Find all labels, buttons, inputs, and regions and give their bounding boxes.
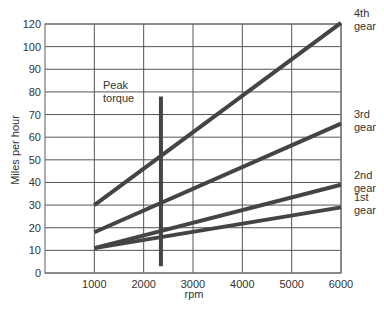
series-labels: 4thgear3rdgear2ndgear1stgear [354,7,376,216]
y-tick-label: 0 [35,267,41,279]
y-tick-label: 60 [29,131,41,143]
y-tick-label: 50 [29,154,41,166]
y-tick-label: 100 [23,41,41,53]
series-label: 3rdgear [354,108,376,133]
series-label: 1stgear [354,191,376,216]
y-tick-label: 20 [29,222,41,234]
y-tick-label: 40 [29,176,41,188]
x-tick-label: 2000 [131,278,155,290]
x-tick-label: 1000 [82,278,106,290]
x-tick-label: 6000 [329,278,353,290]
gear-speed-chart: 0102030405060708090100120 10002000300040… [0,0,384,309]
y-tick-label: 30 [29,199,41,211]
y-tick-label: 70 [29,109,41,121]
y-axis-ticks: 0102030405060708090100120 [23,18,41,279]
series-lines [94,23,341,248]
grid-lines [45,24,341,273]
y-tick-label: 120 [23,18,41,30]
x-tick-label: 4000 [230,278,254,290]
series-label: 2ndgear [354,169,376,194]
y-tick-label: 80 [29,86,41,98]
y-tick-label: 90 [29,63,41,75]
y-tick-label: 10 [29,244,41,256]
y-axis-label: Miles per hour [9,115,21,185]
peak-torque-label: Peaktorque [103,79,134,104]
x-axis-ticks: 100020003000400050006000 [82,278,353,290]
x-tick-label: 5000 [279,278,303,290]
x-axis-label: rpm [185,288,204,300]
series-label: 4thgear [354,7,376,32]
